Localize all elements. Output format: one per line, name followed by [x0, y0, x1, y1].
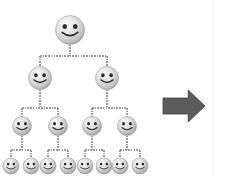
smiley-eye-right: [60, 122, 63, 125]
smiley-eye-left: [101, 73, 105, 77]
smiley-face-circle: [83, 117, 102, 136]
tree-edges: [11, 45, 140, 159]
smiley-eye-right: [109, 73, 113, 77]
smiley-node[interactable]: [56, 16, 85, 45]
smiley-face-circle: [13, 117, 32, 136]
right-arrow: [163, 90, 205, 122]
smiley-eye-right: [129, 122, 132, 125]
smiley-node[interactable]: [29, 67, 52, 90]
smiley-eye-right: [33, 163, 35, 166]
diagram-canvas: [0, 0, 226, 176]
smiley-node[interactable]: [3, 158, 19, 174]
smiley-eye-left: [116, 163, 118, 166]
smiley-node[interactable]: [23, 158, 39, 174]
smiley-eye-left: [27, 163, 29, 166]
smiley-node[interactable]: [13, 117, 32, 136]
smiley-face-circle: [23, 158, 39, 174]
smiley-node[interactable]: [96, 67, 119, 90]
smiley-node[interactable]: [96, 158, 112, 174]
smiley-eye-left: [53, 122, 56, 125]
smiley-eye-right: [13, 163, 15, 166]
smiley-face-circle: [3, 158, 19, 174]
smiley-eye-right: [24, 122, 27, 125]
smiley-node[interactable]: [60, 158, 76, 174]
smiley-face-circle: [29, 67, 52, 90]
smiley-eye-right: [42, 73, 46, 77]
smiley-node[interactable]: [49, 117, 68, 136]
smiley-eye-right: [73, 24, 77, 29]
smiley-face-circle: [118, 117, 137, 136]
smiley-eye-right: [70, 163, 72, 166]
smiley-face-circle: [56, 16, 85, 45]
smiley-face-circle: [96, 67, 119, 90]
smiley-eye-left: [63, 24, 67, 29]
smiley-eye-left: [34, 73, 38, 77]
smiley-node[interactable]: [83, 117, 102, 136]
smiley-eye-left: [64, 163, 66, 166]
smiley-face-circle: [60, 158, 76, 174]
smiley-face-circle: [96, 158, 112, 174]
smiley-face-circle: [77, 158, 93, 174]
smiley-eye-left: [136, 163, 138, 166]
smiley-node[interactable]: [132, 158, 148, 174]
smiley-tree-diagram: [0, 0, 226, 176]
smiley-node[interactable]: [40, 158, 56, 174]
smiley-eye-right: [122, 163, 124, 166]
smiley-eye-left: [44, 163, 46, 166]
smiley-eye-right: [87, 163, 89, 166]
smiley-face-circle: [49, 117, 68, 136]
smiley-eye-right: [94, 122, 97, 125]
smiley-eye-left: [100, 163, 102, 166]
smiley-node[interactable]: [118, 117, 137, 136]
smiley-eye-left: [7, 163, 9, 166]
smiley-eye-left: [17, 122, 20, 125]
smiley-face-circle: [40, 158, 56, 174]
smiley-eye-right: [50, 163, 52, 166]
smiley-eye-left: [87, 122, 90, 125]
smiley-face-circle: [112, 158, 128, 174]
smiley-eye-right: [106, 163, 108, 166]
smiley-face-circle: [132, 158, 148, 174]
smiley-eye-right: [142, 163, 144, 166]
smiley-eye-left: [81, 163, 83, 166]
smiley-eye-left: [122, 122, 125, 125]
smiley-node[interactable]: [77, 158, 93, 174]
smiley-node[interactable]: [112, 158, 128, 174]
